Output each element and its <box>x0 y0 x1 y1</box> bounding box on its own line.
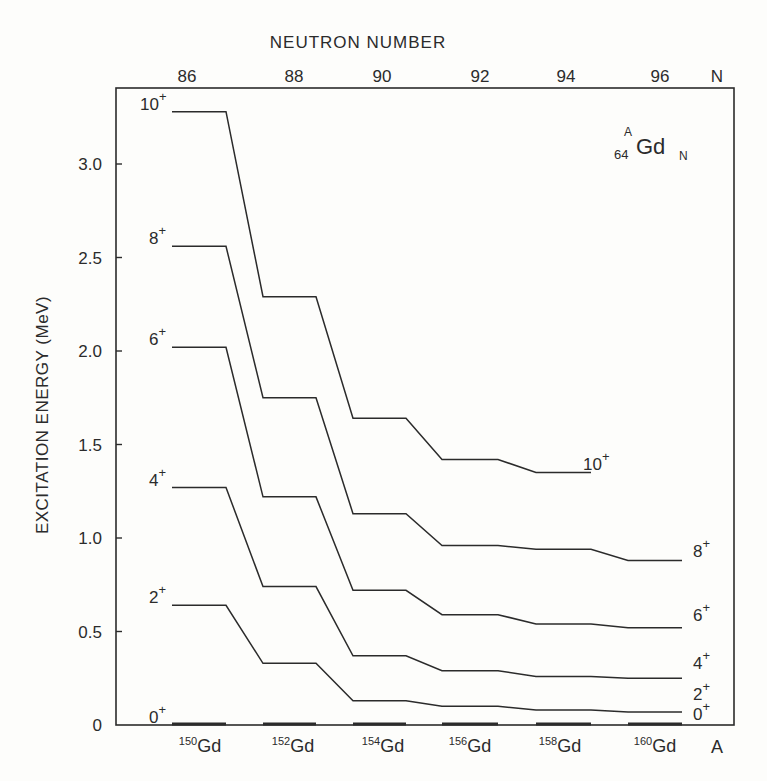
spin-value: 4 <box>149 471 158 490</box>
parity: + <box>602 449 610 464</box>
right-spin-label: 6+ <box>693 600 710 625</box>
mass-number: 156 <box>449 735 467 747</box>
y-tick-label: 0 <box>93 716 102 735</box>
level-line-2plus <box>172 605 682 712</box>
mass-number: 152 <box>272 735 290 747</box>
spin-value: 2 <box>693 685 702 704</box>
y-tick-label: 0.5 <box>78 623 102 642</box>
right-spin-label: 4+ <box>693 648 710 673</box>
parity: + <box>159 89 167 104</box>
spin-value: 8 <box>693 542 702 561</box>
nuclide-annotation: A64GdN <box>614 125 688 163</box>
element-symbol: Gd <box>467 736 491 756</box>
isotope-label: 158Gd <box>539 735 581 756</box>
isotope-label: 150Gd <box>179 735 221 756</box>
top-axis-symbol-n: N <box>711 67 723 86</box>
element-symbol: Gd <box>652 736 676 756</box>
element-symbol: Gd <box>557 736 581 756</box>
top-tick-label: 88 <box>285 67 304 86</box>
mass-number: 154 <box>362 735 380 747</box>
spin-labels: 0+2+4+6+8+10+0+2+4+6+8+10+ <box>140 89 710 727</box>
right-spin-label: 10+ <box>583 449 610 474</box>
isotope-label: 160Gd <box>634 735 676 756</box>
parity: + <box>702 699 710 714</box>
annotation-element-symbol: Gd <box>636 134 665 159</box>
left-spin-label: 10+ <box>140 89 167 114</box>
top-tick-label: 92 <box>471 67 490 86</box>
spin-value: 10 <box>583 455 602 474</box>
bottom-axis-symbol-a: A <box>711 737 723 757</box>
y-tick-label: 2.5 <box>78 249 102 268</box>
isotope-label: 156Gd <box>449 735 491 756</box>
spin-value: 8 <box>149 229 158 248</box>
parity: + <box>158 582 166 597</box>
spin-value: 2 <box>149 588 158 607</box>
spin-value: 4 <box>693 654 702 673</box>
parity: + <box>158 223 166 238</box>
y-tick-label: 1.0 <box>78 529 102 548</box>
parity: + <box>158 465 166 480</box>
y-tick-label: 2.0 <box>78 342 102 361</box>
parity: + <box>158 702 166 717</box>
annotation-proton-subscript: 64 <box>614 147 628 162</box>
parity: + <box>702 536 710 551</box>
x-axis-title: NEUTRON NUMBER <box>270 33 446 52</box>
level-line-8plus <box>172 246 682 560</box>
level-line-6plus <box>172 347 682 628</box>
mass-number: 150 <box>179 735 197 747</box>
plot-border <box>116 88 734 725</box>
left-spin-label: 0+ <box>149 702 166 727</box>
top-tick-label: 94 <box>557 67 576 86</box>
top-tick-label: 96 <box>651 67 670 86</box>
top-axis-title: NEUTRON NUMBER <box>270 33 446 52</box>
plot-frame <box>116 88 734 725</box>
level-line-4plus <box>172 488 682 679</box>
right-spin-label: 8+ <box>693 536 710 561</box>
left-spin-label: 8+ <box>149 223 166 248</box>
parity: + <box>158 324 166 339</box>
spin-value: 10 <box>140 95 159 114</box>
level-systematics-chart: NEUTRON NUMBER 00.51.01.52.02.53.0EXCITA… <box>0 0 767 781</box>
spin-value: 6 <box>149 330 158 349</box>
top-tick-label: 86 <box>178 67 197 86</box>
y-axis: 00.51.01.52.02.53.0EXCITATION ENERGY (Me… <box>33 155 122 735</box>
isotope-label: 154Gd <box>362 735 404 756</box>
parity: + <box>702 600 710 615</box>
parity: + <box>702 679 710 694</box>
spin-value: 6 <box>693 606 702 625</box>
energy-levels <box>172 112 682 724</box>
left-spin-label: 4+ <box>149 465 166 490</box>
isotope-label: 152Gd <box>272 735 314 756</box>
mass-number: 158 <box>539 735 557 747</box>
element-symbol: Gd <box>290 736 314 756</box>
y-tick-label: 3.0 <box>78 155 102 174</box>
spin-value: 0 <box>693 705 702 724</box>
parity: + <box>702 648 710 663</box>
left-spin-label: 2+ <box>149 582 166 607</box>
top-tick-label: 90 <box>373 67 392 86</box>
y-axis-title: EXCITATION ENERGY (MeV) <box>33 296 52 534</box>
element-symbol: Gd <box>197 736 221 756</box>
level-line-10plus <box>172 112 591 473</box>
element-symbol: Gd <box>380 736 404 756</box>
annotation-neutron-subscript: N <box>679 149 688 163</box>
annotation-mass-superscript: A <box>624 125 632 139</box>
y-tick-label: 1.5 <box>78 436 102 455</box>
mass-number: 160 <box>634 735 652 747</box>
top-axis-neutron-number: 868890929496N <box>178 67 724 86</box>
bottom-axis-isotopes: 150Gd152Gd154Gd156Gd158Gd160GdA <box>179 735 723 757</box>
spin-value: 0 <box>149 708 158 727</box>
left-spin-label: 6+ <box>149 324 166 349</box>
